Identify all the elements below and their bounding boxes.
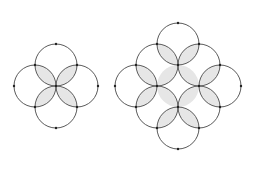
circle [157,107,199,149]
point-dot [135,64,137,66]
point-dot [135,106,137,108]
circle [157,23,199,65]
figure-four-circle-flower [13,43,99,129]
point-dot [55,127,57,129]
point-dot [114,85,116,87]
circles [115,23,241,149]
point-dot [177,106,179,108]
circle [136,86,178,128]
circle [178,44,220,86]
point-dot [177,148,179,150]
diagram-canvas [0,0,256,172]
point-dot [219,106,221,108]
point-dot [156,85,158,87]
point-dot [13,85,15,87]
point-dot [156,127,158,129]
point-dot [156,43,158,45]
point-dot [177,22,179,24]
point-dot [198,85,200,87]
intersection-dots [114,22,242,150]
circle [115,65,157,107]
figure-eight-circle-ring [114,22,242,150]
point-dot [55,85,57,87]
circle [178,86,220,128]
point-dot [97,85,99,87]
point-dot [76,106,78,108]
circle [136,44,178,86]
point-dot [198,127,200,129]
point-dot [34,106,36,108]
circle [56,65,98,107]
shaded-lenses [136,44,220,128]
point-dot [240,85,242,87]
point-dot [76,64,78,66]
intersection-dots [13,43,99,129]
point-dot [34,64,36,66]
point-dot [219,64,221,66]
point-dot [177,64,179,66]
point-dot [55,43,57,45]
point-dot [198,43,200,45]
circle [14,65,56,107]
circle [35,86,77,128]
circle [35,44,77,86]
circle [199,65,241,107]
